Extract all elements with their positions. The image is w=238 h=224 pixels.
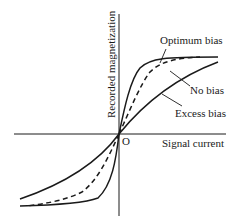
x-axis-label: Signal current <box>162 137 224 149</box>
origin-label: O <box>122 135 130 147</box>
curve-optimum-bias-neg <box>20 134 119 206</box>
leader-nobias <box>170 71 190 86</box>
magnetization-diagram: Optimum bias No bias Excess bias O Signa… <box>0 0 238 224</box>
label-excess-bias: Excess bias <box>175 107 226 119</box>
curve-no-bias-neg <box>26 134 119 206</box>
y-axis-label: Recorded magnetization <box>105 10 117 118</box>
label-optimum-bias: Optimum bias <box>160 34 223 46</box>
curve-no-bias <box>119 57 200 134</box>
leader-excess <box>162 94 182 106</box>
leader-optimum <box>160 49 166 63</box>
label-no-bias: No bias <box>190 84 224 96</box>
